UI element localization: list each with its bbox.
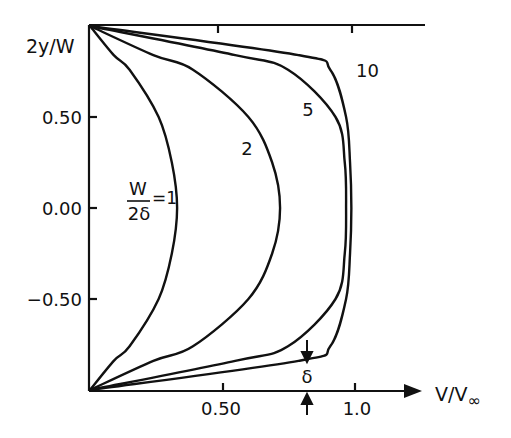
y-tick-label-0.50: 0.50	[42, 107, 82, 128]
y-axis-label: 2y/W	[26, 35, 75, 57]
curve-label-2: 2	[241, 138, 252, 159]
x-axis-label-subscript: ∞	[467, 391, 480, 410]
x-tick-label-1.0: 1.0	[343, 398, 372, 419]
y-tick-label-0.00: 0.00	[42, 198, 82, 219]
x-tick-label-0.50: 0.50	[201, 398, 241, 419]
delta-label: δ	[301, 366, 312, 387]
x-axis-label: V/V∞	[435, 383, 481, 410]
delta-up-arrow-icon	[302, 394, 312, 404]
x-axis-label-main: V/V	[435, 383, 467, 405]
curve-label-10: 10	[356, 60, 379, 81]
velocity-profile-chart: 2y/W 0.50 0.00 −0.50 0.50 1.0 V/V∞ W 2δ …	[0, 0, 511, 438]
param-numerator: W	[129, 178, 147, 199]
param-denominator: 2δ	[128, 203, 150, 224]
curve-label-5: 5	[302, 99, 313, 120]
y-tick-label-neg0.50: −0.50	[27, 289, 82, 310]
curve-2	[90, 26, 280, 390]
param-equals-1-label: =1	[152, 188, 177, 208]
x-axis-arrowhead-icon	[404, 384, 422, 398]
